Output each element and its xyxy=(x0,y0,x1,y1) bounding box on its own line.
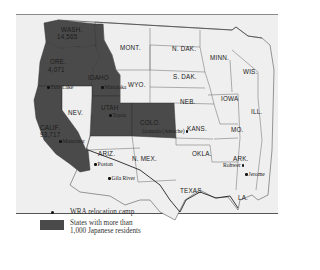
label-wash: WASH. xyxy=(61,26,82,33)
value-calif: 93,717 xyxy=(40,131,60,138)
camp-dot-icon xyxy=(47,86,50,89)
label-texas: TEXAS xyxy=(180,187,202,194)
label-mont: MONT. xyxy=(120,44,141,51)
camp-dot-icon xyxy=(242,164,245,167)
label-sdak: S. DAK. xyxy=(173,73,197,80)
legend-camp-label: WRA relocation camp xyxy=(70,208,134,216)
label-idaho: IDAHO xyxy=(88,74,109,81)
legend-highlight-line1: States with more than xyxy=(70,219,141,227)
label-ariz: ARIZ. xyxy=(98,150,115,157)
legend-row-camp: WRA relocation camp xyxy=(40,208,141,216)
label-colo: COLO. xyxy=(140,119,161,126)
label-ill: ILL. xyxy=(251,108,262,115)
label-kans: KANS. xyxy=(187,125,207,132)
legend-highlight-line2: 1,000 Japanese residents xyxy=(70,227,141,235)
camp-dot-icon xyxy=(186,130,189,133)
camp-dot-icon xyxy=(109,114,112,117)
label-iowa: IOWA xyxy=(221,95,238,102)
camp-tule-lake: Tule Lake xyxy=(46,84,73,90)
camp-dot-icon xyxy=(51,211,54,214)
label-neb: NEB. xyxy=(180,98,196,105)
label-wis: WIS. xyxy=(243,68,257,75)
label-utah: UTAH xyxy=(101,104,118,111)
camp-granada: Granada (Amache) xyxy=(142,128,189,134)
label-ore: ORE. xyxy=(50,58,66,65)
camp-dot-icon xyxy=(245,173,248,176)
label-mo: MO. xyxy=(231,126,244,133)
camp-minidoka: Minidoka xyxy=(100,84,126,90)
camp-manzanar: Manzanar xyxy=(58,138,85,144)
label-la: LA. xyxy=(238,194,248,201)
label-ark: ARK. xyxy=(233,155,249,162)
legend-row-highlight: States with more than 1,000 Japanese res… xyxy=(40,219,141,235)
camp-poston: Poston xyxy=(93,161,113,167)
camp-dot-icon xyxy=(59,140,62,143)
highlight-swatch-icon xyxy=(40,220,64,230)
label-minn: MINN. xyxy=(210,54,229,61)
label-nev: NEV. xyxy=(68,109,83,116)
value-ore: 4,071 xyxy=(48,66,65,73)
camp-dot-icon xyxy=(94,163,97,166)
label-okla: OKLA. xyxy=(192,150,212,157)
legend: WRA relocation camp States with more tha… xyxy=(40,208,141,238)
label-nmex: N. MEX. xyxy=(132,155,157,162)
value-wash: 14,565 xyxy=(57,33,77,40)
camp-gila-river: Gila River xyxy=(107,175,135,181)
label-wyo: WYO. xyxy=(128,81,146,88)
camp-dot-icon xyxy=(108,177,111,180)
camp-rohwer: Rohwer xyxy=(223,162,245,168)
label-ndak: N. DAK. xyxy=(172,45,196,52)
camp-topaz: Topaz xyxy=(108,112,126,118)
camp-dot-icon xyxy=(101,86,104,89)
label-calif: CALIF. xyxy=(40,124,60,131)
camp-jerome: Jerome xyxy=(244,171,265,177)
